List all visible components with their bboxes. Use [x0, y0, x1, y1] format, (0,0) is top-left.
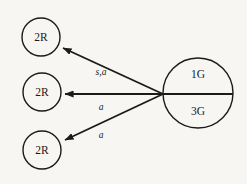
- source-node[interactable]: 1G 3G: [163, 58, 233, 128]
- node-label-bottom: 2R: [35, 144, 49, 156]
- edge-label-bottom: a: [99, 130, 104, 140]
- source-node-bottom-label: 3G: [191, 105, 205, 117]
- edge-labels-group: s,a a a: [96, 67, 107, 140]
- target-node-top[interactable]: 2R: [22, 18, 60, 56]
- node-label-middle: 2R: [35, 86, 49, 98]
- graph-svg: s,a a a 2R 2R 2R 1G 3G: [0, 0, 247, 184]
- edge-label-top: s,a: [96, 67, 107, 77]
- edge-top-arrow: [63, 48, 163, 94]
- target-node-middle[interactable]: 2R: [23, 73, 61, 111]
- edge-bottom-arrow: [65, 94, 163, 140]
- node-label-top: 2R: [34, 31, 48, 43]
- edge-label-middle: a: [99, 102, 104, 112]
- source-node-top-label: 1G: [191, 68, 205, 80]
- diagram-canvas: s,a a a 2R 2R 2R 1G 3G: [0, 0, 247, 184]
- target-node-bottom[interactable]: 2R: [23, 131, 61, 169]
- edges-group: [63, 48, 163, 140]
